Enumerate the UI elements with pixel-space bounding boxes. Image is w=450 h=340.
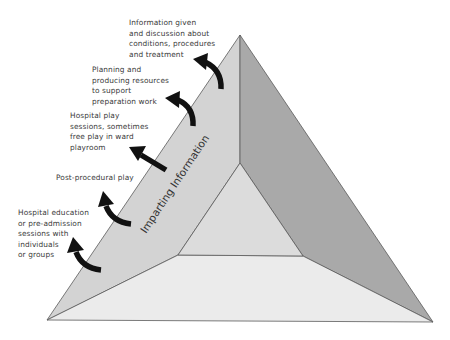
label-post-procedural-play: Post-procedural play xyxy=(56,173,134,184)
label-information-given: Information given and discussion about c… xyxy=(129,18,215,60)
label-hospital-play-sessions: Hospital play sessions, sometimes free p… xyxy=(70,111,148,153)
label-hospital-education: Hospital education or pre-admission sess… xyxy=(18,208,89,261)
arrowhead-icon xyxy=(98,191,114,207)
pyramid-diagram: Imparting Information xyxy=(0,0,450,340)
label-planning-resources: Planning and producing resources to supp… xyxy=(92,65,169,107)
